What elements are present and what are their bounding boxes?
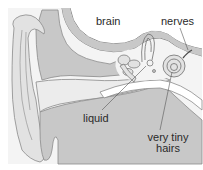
label-very-tiny-hairs: very tiny hairs <box>137 132 199 154</box>
cochlea <box>163 55 185 77</box>
label-brain: brain <box>96 16 120 27</box>
label-liquid: liquid <box>83 113 109 124</box>
label-nerves: nerves <box>161 16 194 27</box>
label-hairs-line2: hairs <box>137 143 199 154</box>
